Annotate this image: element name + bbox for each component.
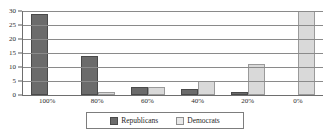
gridline bbox=[23, 53, 323, 54]
bar-republicans-60pct bbox=[131, 87, 148, 95]
x-axis-tick-label: 20% bbox=[223, 97, 273, 109]
plot-wrapper: 051015202530 100%80%60%40%20%0% bbox=[0, 0, 329, 104]
y-axis-tick-label: 30 bbox=[9, 8, 16, 15]
bar-republicans-80pct bbox=[81, 56, 98, 95]
y-axis: 051015202530 bbox=[0, 0, 22, 104]
bar-chart: 051015202530 100%80%60%40%20%0% Republic… bbox=[0, 0, 329, 134]
y-axis-tick-label: 10 bbox=[9, 64, 16, 71]
gridline bbox=[23, 81, 323, 82]
dark-gray-swatch bbox=[110, 117, 118, 125]
bar-republicans-20pct bbox=[231, 92, 248, 95]
legend-label: Democrats bbox=[187, 117, 220, 125]
bar-democrats-40pct bbox=[198, 81, 215, 95]
y-axis-tick-label: 20 bbox=[9, 36, 16, 43]
bar-republicans-40pct bbox=[181, 89, 198, 95]
y-axis-tick-label: 0 bbox=[13, 92, 17, 99]
gridline bbox=[23, 67, 323, 68]
bar-democrats-80pct bbox=[98, 92, 115, 95]
x-axis-tick-label: 100% bbox=[22, 97, 72, 109]
x-axis-tick-label: 60% bbox=[122, 97, 172, 109]
bar-democrats-20pct bbox=[248, 64, 265, 95]
x-axis-tick-label: 40% bbox=[173, 97, 223, 109]
gridline bbox=[23, 25, 323, 26]
legend-label: Republicans bbox=[121, 117, 158, 125]
chart-legend: RepublicansDemocrats bbox=[86, 112, 244, 129]
x-axis-tick-label: 0% bbox=[273, 97, 323, 109]
plot-area bbox=[22, 11, 323, 96]
x-axis-tick-label: 80% bbox=[72, 97, 122, 109]
bar-democrats-60pct bbox=[148, 87, 165, 95]
legend-entry-democrats: Democrats bbox=[176, 117, 220, 125]
legend-entry-republicans: Republicans bbox=[110, 117, 158, 125]
light-gray-swatch bbox=[176, 117, 184, 125]
gridline bbox=[23, 39, 323, 40]
y-axis-tick-label: 15 bbox=[9, 50, 16, 57]
x-axis: 100%80%60%40%20%0% bbox=[22, 97, 323, 109]
gridline bbox=[23, 11, 323, 12]
y-axis-tick-label: 5 bbox=[13, 78, 17, 85]
y-axis-tick-label: 25 bbox=[9, 22, 16, 29]
